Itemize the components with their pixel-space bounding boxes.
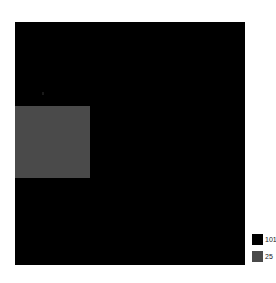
legend-item-101: 101 [252, 234, 276, 245]
legend-label-25: 25 [265, 251, 273, 262]
legend-swatch-101 [252, 234, 263, 245]
legend-swatch-25 [252, 251, 263, 262]
legend: 101 25 [252, 234, 276, 262]
plot-panel [15, 22, 245, 265]
raster-class-25 [15, 106, 90, 178]
legend-label-101: 101 [265, 234, 276, 245]
raster-artifact-speck [42, 92, 44, 95]
legend-item-25: 25 [252, 251, 276, 262]
